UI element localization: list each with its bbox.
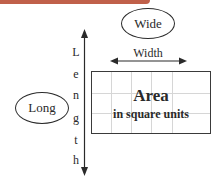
length-letter: L <box>71 46 81 58</box>
area-subtitle: in square units <box>92 107 210 122</box>
area-title: Area <box>92 86 210 106</box>
length-letter: h <box>71 154 81 166</box>
length-letter: g <box>71 112 81 124</box>
area-rectangle: Area in square units <box>91 71 211 134</box>
length-letter: n <box>71 89 81 101</box>
width-label: Width <box>118 46 178 61</box>
length-arrow-icon <box>81 29 88 176</box>
length-letter: e <box>71 68 81 80</box>
length-letter: t <box>71 134 81 146</box>
